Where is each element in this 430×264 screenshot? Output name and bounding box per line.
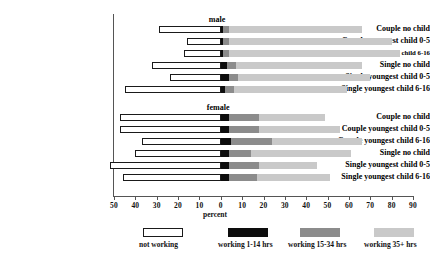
- x-tick: [242, 196, 243, 200]
- legend-swatch: [228, 228, 268, 237]
- chart-legend: not workingworking 1-14 hrsworking 15-34…: [0, 228, 430, 258]
- bar-segment-working-15-34-hrs: [229, 162, 259, 169]
- table-row: [0, 114, 430, 121]
- table-row: [0, 50, 430, 57]
- legend-label: working 35+ hrs: [364, 240, 417, 249]
- bar-segment-working-35-hrs: [229, 26, 361, 33]
- bar-segment-working-15-34-hrs: [229, 150, 250, 157]
- bar-segment-not-working: [120, 126, 220, 133]
- legend-swatch: [143, 228, 183, 237]
- legend-label: working 1-14 hrs: [218, 240, 273, 249]
- bar-segment-working-1-14-hrs: [221, 174, 230, 181]
- bar-segment-not-working: [110, 162, 221, 169]
- x-axis-title: percent: [0, 210, 430, 219]
- bar-segment-not-working: [184, 50, 220, 57]
- legend-swatch: [300, 228, 340, 237]
- legend-swatch: [374, 228, 414, 237]
- bar-segment-working-15-34-hrs: [225, 86, 234, 93]
- x-tick: [264, 196, 265, 200]
- bar-segment-working-35-hrs: [236, 62, 362, 69]
- bar-segment-working-15-34-hrs: [229, 126, 259, 133]
- legend-label: working 15-34 hrs: [288, 240, 346, 249]
- group-label-male: male: [209, 15, 225, 24]
- table-row: [0, 74, 430, 81]
- table-row: [0, 38, 430, 45]
- bar-segment-working-15-34-hrs: [229, 74, 238, 81]
- x-tick: [178, 196, 179, 200]
- bar-segment-working-1-14-hrs: [221, 138, 232, 145]
- bar-segment-working-35-hrs: [259, 114, 325, 121]
- table-row: [0, 150, 430, 157]
- bar-segment-working-1-14-hrs: [221, 162, 230, 169]
- bar-segment-working-1-14-hrs: [221, 114, 230, 121]
- x-tick: [285, 196, 286, 200]
- bar-segment-not-working: [152, 62, 220, 69]
- x-tick: [199, 196, 200, 200]
- stacked-bar-chart: 50403020100102030405060708090 percent ma…: [0, 0, 430, 264]
- table-row: [0, 138, 430, 145]
- bar-segment-not-working: [187, 38, 221, 45]
- x-tick: [328, 196, 329, 200]
- legend-label: not working: [139, 240, 178, 249]
- x-tick: [135, 196, 136, 200]
- x-tick: [413, 196, 414, 200]
- bar-segment-working-15-34-hrs: [231, 138, 272, 145]
- x-tick-label: 90: [401, 201, 425, 210]
- bar-segment-not-working: [120, 114, 220, 121]
- bar-segment-working-1-14-hrs: [221, 150, 230, 157]
- bar-segment-working-35-hrs: [229, 38, 391, 45]
- x-tick: [114, 196, 115, 200]
- bar-segment-working-35-hrs: [272, 138, 362, 145]
- group-label-female: female: [207, 103, 230, 112]
- table-row: [0, 126, 430, 133]
- table-row: [0, 26, 430, 33]
- table-row: [0, 62, 430, 69]
- bar-segment-working-35-hrs: [259, 162, 317, 169]
- bar-segment-working-35-hrs: [251, 150, 351, 157]
- bar-segment-working-15-34-hrs: [229, 114, 259, 121]
- bar-segment-working-35-hrs: [257, 174, 330, 181]
- bar-segment-not-working: [123, 174, 221, 181]
- bar-segment-not-working: [135, 150, 220, 157]
- bar-segment-working-35-hrs: [259, 126, 340, 133]
- table-row: [0, 162, 430, 169]
- x-tick: [392, 196, 393, 200]
- bar-segment-not-working: [170, 74, 221, 81]
- bar-segment-working-35-hrs: [234, 86, 347, 93]
- bar-segment-working-1-14-hrs: [221, 74, 230, 81]
- bar-segment-not-working: [159, 26, 221, 33]
- table-row: [0, 86, 430, 93]
- bar-segment-not-working: [125, 86, 221, 93]
- x-tick: [306, 196, 307, 200]
- table-row: [0, 174, 430, 181]
- bar-segment-working-35-hrs: [229, 50, 400, 57]
- x-tick: [370, 196, 371, 200]
- bar-segment-working-35-hrs: [238, 74, 370, 81]
- bar-segment-not-working: [142, 138, 221, 145]
- bar-segment-working-15-34-hrs: [227, 62, 236, 69]
- x-tick: [221, 196, 222, 200]
- x-tick: [157, 196, 158, 200]
- bar-segment-working-15-34-hrs: [229, 174, 257, 181]
- x-tick: [349, 196, 350, 200]
- bar-segment-working-1-14-hrs: [221, 126, 230, 133]
